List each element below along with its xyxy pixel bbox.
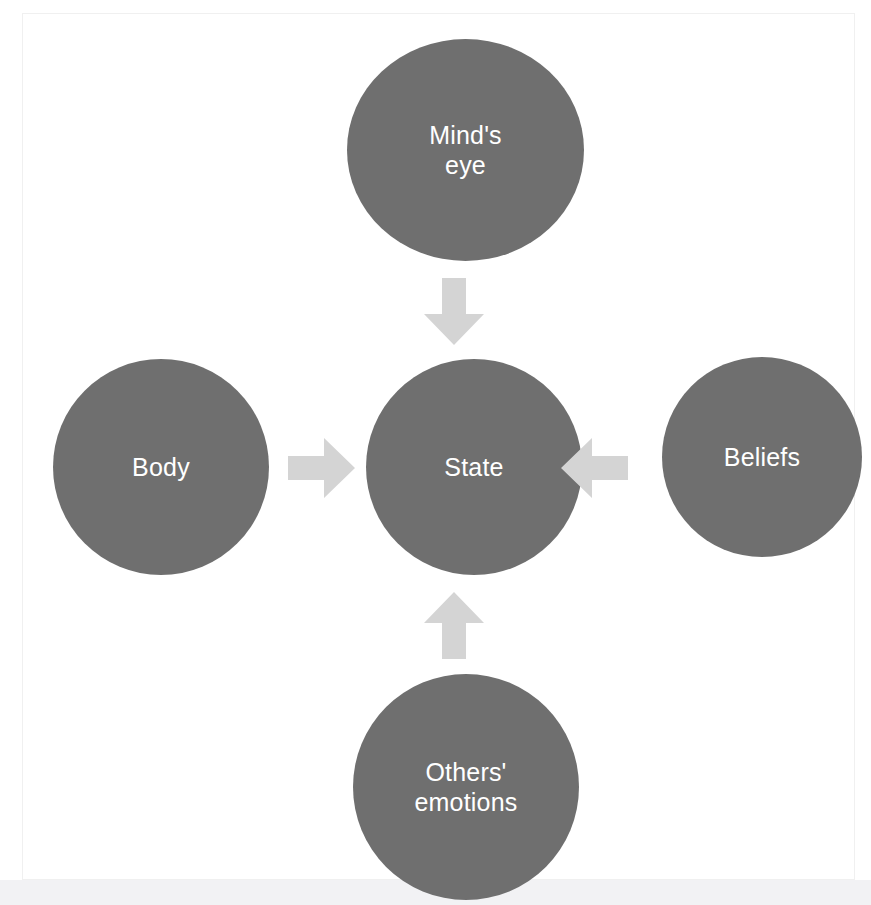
node-state[interactable]: State: [366, 359, 582, 575]
diagram-root: Mind's eye Body State Beliefs Others' em…: [0, 0, 871, 905]
arrow-right-icon: [288, 437, 356, 499]
node-state-label: State: [434, 452, 513, 483]
arrow-up-icon: [423, 592, 485, 660]
node-beliefs[interactable]: Beliefs: [662, 357, 862, 557]
node-others-emotions[interactable]: Others' emotions: [353, 674, 579, 900]
node-body-label: Body: [122, 452, 200, 483]
node-minds-eye[interactable]: Mind's eye: [347, 39, 584, 261]
figure-panel: Mind's eye Body State Beliefs Others' em…: [22, 13, 855, 880]
node-beliefs-label: Beliefs: [714, 442, 810, 473]
arrow-down-icon: [423, 278, 485, 346]
arrow-left-icon: [561, 437, 629, 499]
node-body[interactable]: Body: [53, 359, 269, 575]
node-minds-eye-label: Mind's eye: [419, 120, 512, 181]
node-others-emotions-label: Others' emotions: [404, 757, 527, 818]
